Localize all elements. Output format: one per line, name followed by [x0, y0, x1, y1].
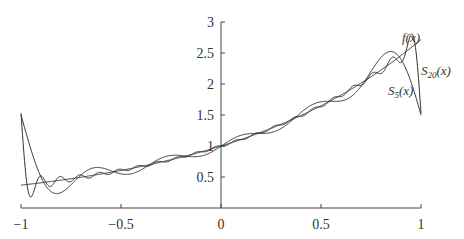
x-tick-label: 0.5 — [312, 217, 330, 232]
y-tick-label: 0.5 — [197, 170, 215, 185]
chart-svg: −1−0.500.510.511.522.53 f(x) S5(x) S20(x… — [0, 0, 464, 239]
label-s5: S5(x) — [388, 83, 413, 100]
label-s20: S20(x) — [421, 63, 451, 80]
x-tick-label: −0.5 — [108, 217, 133, 232]
y-tick-label: 1.5 — [197, 108, 215, 123]
y-tick-label: 3 — [207, 15, 214, 30]
x-tick-label: 1 — [418, 217, 425, 232]
fourier-series-chart: −1−0.500.510.511.522.53 f(x) S5(x) S20(x… — [0, 0, 464, 239]
x-tick-label: 0 — [218, 217, 225, 232]
y-tick-label: 2.5 — [197, 46, 215, 61]
axes: −1−0.500.510.511.522.53 — [14, 15, 425, 232]
label-f: f(x) — [402, 30, 420, 45]
x-tick-label: −1 — [14, 217, 29, 232]
y-tick-label: 2 — [207, 77, 214, 92]
